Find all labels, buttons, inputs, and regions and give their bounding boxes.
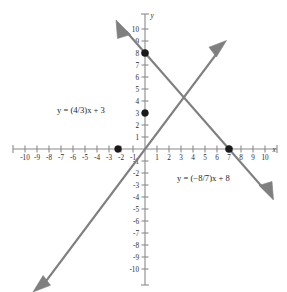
y-tick-label: -7 [133, 230, 139, 238]
y-tick-label: -5 [133, 206, 139, 214]
y-tick-label: 1 [135, 134, 139, 142]
y-tick-label: -9 [133, 254, 139, 262]
point-y-intercept-line1 [142, 110, 149, 117]
marked-points-group [115, 49, 233, 152]
line-1-arrowhead-upper-right [209, 41, 227, 58]
y-tick-label: -4 [133, 194, 139, 202]
x-axis-label: x [271, 146, 276, 154]
x-tick-label: -8 [46, 154, 52, 162]
y-tick-label: 4 [135, 98, 139, 106]
line-1-equation-label: y = (4/3)x + 3 [57, 105, 105, 115]
x-tick-label: -10 [20, 154, 30, 162]
y-tick-label: 10 [132, 26, 140, 34]
y-tick-label: -10 [129, 266, 139, 274]
x-tick-label: -6 [70, 154, 76, 162]
x-tick-label: -4 [94, 154, 100, 162]
y-tick-label: -6 [133, 218, 139, 226]
x-tick-label: -3 [106, 154, 112, 162]
point-x-intercept-line1 [115, 146, 122, 153]
y-tick-label: -3 [133, 182, 139, 190]
line-2-equation-label: y = (−8/7)x + 8 [177, 173, 230, 183]
point-x-intercept-line2 [225, 145, 232, 152]
coordinate-graph-figure: -10 -9 -8 -7 -6 -5 -4 -3 -2 -1 1 2 3 4 5… [0, 0, 287, 292]
line-2-arrowhead-upper-left [116, 20, 131, 39]
line-1-segment [44, 55, 217, 285]
y-tick-label: 2 [135, 122, 139, 130]
y-tick-label: 6 [135, 74, 139, 82]
x-tick-label: -7 [58, 154, 64, 162]
x-tick-label: -5 [82, 154, 88, 162]
y-axis-label: y [149, 12, 154, 20]
x-tick-label: -2 [118, 154, 124, 162]
line-1-group [33, 41, 227, 292]
graph-svg: -10 -9 -8 -7 -6 -5 -4 -3 -2 -1 1 2 3 4 5… [0, 0, 287, 292]
x-tick-label: 3 [179, 154, 183, 162]
y-tick-label: 3 [135, 110, 139, 118]
x-tick-label: 9 [251, 154, 255, 162]
x-tick-label: 10 [261, 154, 269, 162]
x-tick-label: 2 [167, 154, 171, 162]
y-tick-label: -8 [133, 242, 139, 250]
y-tick-label: 5 [135, 86, 139, 94]
y-tick-label: 8 [135, 50, 139, 58]
y-tick-label: 7 [135, 62, 139, 70]
point-y-intercept-line2 [141, 49, 148, 56]
x-tick-label: 6 [215, 154, 219, 162]
x-tick-label: 1 [155, 154, 159, 162]
x-tick-label: -9 [34, 154, 40, 162]
x-tick-label: 5 [203, 154, 207, 162]
x-tick-label: 7 [227, 154, 231, 162]
y-tick-label: -2 [133, 170, 139, 178]
x-tick-label: 4 [191, 154, 195, 162]
